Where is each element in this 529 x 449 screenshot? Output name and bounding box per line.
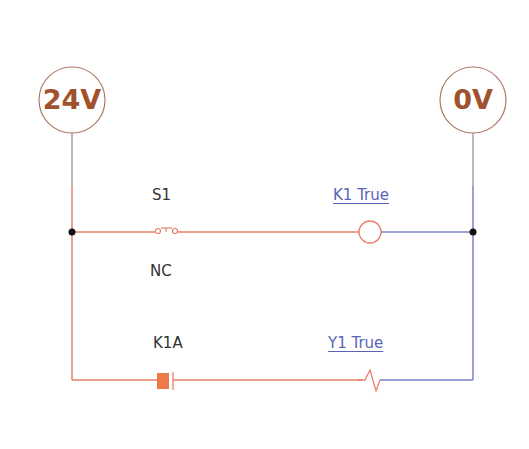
rail-label-24v: 24V [39, 84, 105, 115]
nc-label: NC [150, 262, 172, 280]
s1-label: S1 [152, 186, 171, 204]
k1-status[interactable]: K1 True [333, 186, 389, 204]
junction-left [69, 229, 76, 236]
s1-nc-contact[interactable] [156, 228, 178, 234]
k1-coil[interactable] [359, 221, 381, 243]
junction-right [470, 229, 477, 236]
rail-label-0v: 0V [440, 84, 506, 115]
y1-solenoid[interactable] [358, 370, 380, 391]
k1a-label: K1A [153, 334, 183, 352]
ladder-diagram [0, 0, 529, 449]
y1-status[interactable]: Y1 True [328, 334, 383, 352]
k1a-contact[interactable] [157, 372, 173, 390]
